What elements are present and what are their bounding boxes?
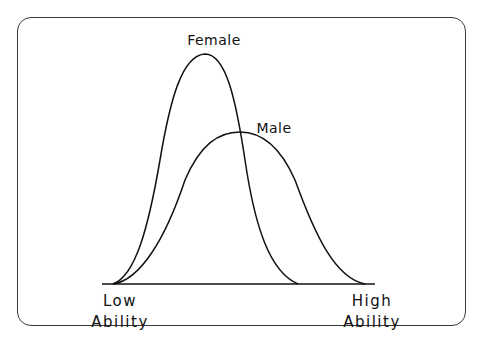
female-curve <box>113 54 298 284</box>
low-ability-label: Low Ability <box>80 291 160 333</box>
distribution-plot <box>0 0 493 360</box>
high-label-line2: Ability <box>332 312 412 333</box>
low-label-line1: Low <box>80 291 160 312</box>
female-curve-label: Female <box>185 31 243 49</box>
male-curve-label: Male <box>254 119 294 137</box>
high-ability-label: High Ability <box>332 291 412 333</box>
low-label-line2: Ability <box>80 312 160 333</box>
high-label-line1: High <box>332 291 412 312</box>
